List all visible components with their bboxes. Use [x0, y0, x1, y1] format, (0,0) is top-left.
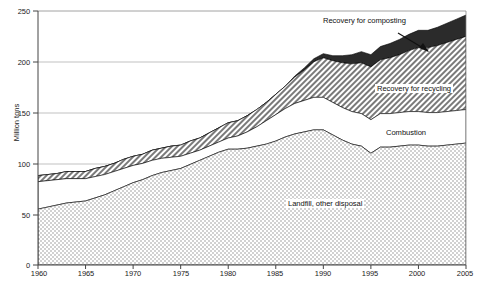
y-tick-50: 50 — [4, 211, 30, 220]
y-tick-250: 250 — [4, 7, 30, 16]
label-landfill-other-disposal: Landfill, other disposal — [286, 199, 364, 208]
x-tick-1995: 1995 — [353, 269, 387, 278]
x-tick-1960: 1960 — [22, 269, 56, 278]
y-tick-200: 200 — [4, 58, 30, 67]
area-landfill-other-disposal — [38, 130, 466, 265]
x-tick-1970: 1970 — [116, 269, 150, 278]
x-tick-1980: 1980 — [211, 269, 245, 278]
x-tick-2005: 2005 — [448, 269, 482, 278]
label-recovery-for-composting: Recovery for composting — [323, 16, 406, 25]
x-tick-1965: 1965 — [69, 269, 103, 278]
x-tick-1975: 1975 — [164, 269, 198, 278]
x-tick-2000: 2000 — [400, 269, 434, 278]
label-combustion: Combustion — [386, 128, 426, 137]
y-tick-marks — [33, 11, 38, 265]
x-tick-1990: 1990 — [306, 269, 340, 278]
label-recovery-for-recycling: Recovery for recycling — [375, 84, 453, 93]
x-tick-1985: 1985 — [258, 269, 292, 278]
y-axis-title: Million tons — [12, 93, 21, 153]
y-tick-150: 150 — [4, 109, 30, 118]
y-tick-100: 100 — [4, 160, 30, 169]
chart-canvas — [0, 0, 488, 290]
stacked-area-chart: Million tons 250 200 150 100 50 0 1960 1… — [0, 0, 488, 290]
series-areas — [38, 15, 466, 265]
